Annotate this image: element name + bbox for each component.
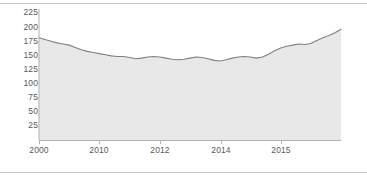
y-axis-tick-label: 150 — [24, 51, 38, 60]
y-axis-tick-label: 100 — [24, 79, 38, 88]
x-axis-tick-label: 2010 — [89, 146, 108, 155]
x-axis-tick-label: 2012 — [150, 146, 169, 155]
x-axis-tick-label: 2015 — [271, 146, 290, 155]
area-series-fill — [39, 29, 341, 140]
plot-area — [0, 0, 367, 179]
x-axis-tick-label: 2000 — [29, 146, 48, 155]
y-axis-tick-label: 75 — [28, 93, 38, 102]
y-axis-tick-label: 225 — [24, 8, 38, 17]
y-axis-tick-label: 125 — [24, 65, 38, 74]
y-axis-tick-label: 175 — [24, 37, 38, 46]
y-axis-tick-label: 200 — [24, 23, 38, 32]
y-axis-tick-label: 25 — [28, 121, 38, 130]
y-axis-tick-label: 50 — [28, 107, 38, 116]
chart-figure: 255075100125150175200225 200020102012201… — [0, 0, 367, 179]
x-axis-tick-label: 2014 — [211, 146, 230, 155]
